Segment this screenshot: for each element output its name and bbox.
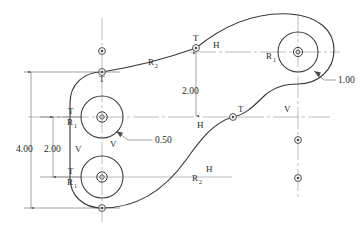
label-r1-right-boss: R 1	[266, 51, 276, 63]
marker-t-top-left-outline: T	[99, 74, 105, 84]
outline-lower-sweep	[102, 117, 233, 208]
label-r1-upper-left-boss: R 1	[67, 117, 77, 129]
marker-v-under-boss: V	[110, 139, 117, 149]
label-r1-lower-left-boss-sub: 1	[74, 183, 77, 189]
label-r2-lower-curve: R 2	[192, 173, 202, 185]
dimension-text-2-00-spacing: 2.00	[44, 144, 61, 154]
label-r1-right-boss-base: R	[266, 51, 272, 61]
bosses	[81, 32, 318, 198]
marker-h-mid-center: H	[197, 120, 204, 130]
label-r2-upper-curve: R 2	[148, 57, 158, 69]
label-r2-lower-curve-base: R	[192, 173, 198, 183]
figure-caption	[0, 218, 363, 230]
dimension-text-0-50: 0.50	[155, 135, 172, 145]
tangent-marker-right-vertical-lower	[295, 175, 302, 182]
label-r1-lower-left-boss: R 1	[67, 177, 77, 189]
label-r1-upper-left-boss-sub: 1	[74, 123, 77, 129]
marker-t-upper-left-boss: T	[68, 106, 74, 116]
marker-h-upper-curve: H	[213, 40, 220, 50]
tangent-marker-right-vertical-upper	[295, 137, 302, 144]
marker-t-mid-right: T	[238, 104, 244, 114]
marker-v-left-column: V	[75, 144, 82, 154]
tangent-marker-upper-curve	[193, 45, 200, 52]
label-r1-upper-left-boss-base: R	[67, 117, 73, 127]
centerlines	[28, 14, 340, 222]
leader-0-50-arrowhead	[116, 131, 123, 137]
label-r2-upper-curve-sub: 2	[155, 63, 158, 69]
dimension-text-4-00: 4.00	[16, 144, 33, 154]
marker-v-mid-right: V	[284, 104, 291, 114]
tangent-marker-upper-vertical	[99, 48, 106, 55]
drawing-labels: 4.00 2.00 2.00 0.50 1.00 V T R 1 T R 1 T…	[16, 33, 355, 189]
engineering-drawing-canvas: 4.00 2.00 2.00 0.50 1.00 V T R 1 T R 1 T…	[0, 0, 363, 230]
label-r2-lower-curve-sub: 2	[199, 179, 202, 185]
label-r1-right-boss-sub: 1	[273, 57, 276, 63]
tangent-marker-mid-right	[230, 114, 237, 121]
marker-t-lower-left-boss: T	[68, 166, 74, 176]
marker-t-upper-curve: T	[193, 33, 199, 43]
label-r1-lower-left-boss-base: R	[67, 177, 73, 187]
marker-h-lower-curve: H	[206, 164, 213, 174]
dimension-text-1-00: 1.00	[338, 75, 355, 85]
dimension-text-2-00-offset: 2.00	[182, 86, 199, 96]
label-r2-upper-curve-base: R	[148, 57, 154, 67]
